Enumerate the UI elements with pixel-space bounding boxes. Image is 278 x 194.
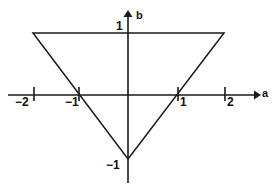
x-axis-label: a <box>262 88 268 99</box>
y-tick-label-1: 1 <box>116 20 123 32</box>
y-axis-arrow-icon <box>124 10 133 17</box>
x-tick-label-2: 2 <box>227 96 234 108</box>
x-tick-label--2: −2 <box>15 96 29 108</box>
plot-canvas <box>0 0 278 194</box>
y-axis-label: b <box>136 10 143 21</box>
coordinate-plane-figure: a b −2 −1 1 2 1 −1 <box>0 0 278 194</box>
y-tick-label--1: −1 <box>106 159 120 171</box>
x-tick-label--1: −1 <box>65 96 79 108</box>
x-tick-label-1: 1 <box>180 96 187 108</box>
x-axis-arrow-icon <box>254 91 261 100</box>
